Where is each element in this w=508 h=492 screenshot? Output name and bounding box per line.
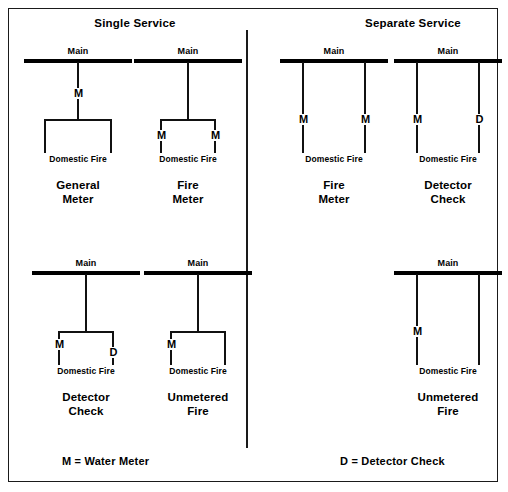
- meter-badge-domestic: M: [155, 130, 168, 141]
- diagram-caption: Detector Check: [30, 390, 142, 418]
- domestic-drop-pipe: [302, 62, 304, 153]
- caption-line-1: Unmetered: [418, 391, 479, 403]
- diagram-caption: General Meter: [22, 178, 134, 206]
- diagram-caption: Fire Meter: [132, 178, 244, 206]
- leg-caption: Domestic Fire: [132, 154, 244, 164]
- meter-badge-main: M: [72, 88, 85, 99]
- caption-line-2: Fire: [437, 405, 459, 417]
- main-pipe: [394, 59, 502, 63]
- meter-badge-domestic: M: [297, 114, 310, 125]
- meter-badge-domestic: M: [411, 114, 424, 125]
- caption-line-2: Check: [430, 193, 465, 205]
- caption-line-1: Detector: [424, 179, 471, 191]
- diagram-caption: Detector Check: [392, 178, 504, 206]
- fire-drop-pipe: [364, 62, 366, 153]
- section-header-single-service: Single Service: [60, 17, 210, 29]
- main-label: Main: [132, 46, 244, 56]
- caption-line-2: Meter: [318, 193, 349, 205]
- main-pipe: [280, 59, 388, 63]
- leg-caption: Domestic Fire: [278, 154, 390, 164]
- leg-caption: Domestic Fire: [30, 366, 142, 376]
- detector-badge-fire: D: [473, 114, 486, 125]
- meter-badge-domestic: M: [411, 326, 424, 337]
- caption-line-2: Fire: [187, 405, 209, 417]
- main-label: Main: [22, 46, 134, 56]
- branch-crossbar: [170, 331, 226, 333]
- service-drop-pipe: [197, 274, 199, 332]
- meter-badge-domestic: M: [165, 339, 178, 350]
- caption-line-1: Detector: [62, 391, 109, 403]
- diagram-caption: Unmetered Fire: [392, 390, 504, 418]
- fire-drop-pipe: [478, 62, 480, 153]
- domestic-leg-pipe: [44, 119, 46, 153]
- main-label: Main: [278, 46, 390, 56]
- caption-line-2: Meter: [62, 193, 93, 205]
- meter-badge-fire: M: [209, 130, 222, 141]
- legend-detector-check: D = Detector Check: [340, 455, 445, 467]
- diagram-caption: Fire Meter: [278, 178, 390, 206]
- caption-line-1: Unmetered: [168, 391, 229, 403]
- fire-leg-pipe-unmetered: [224, 331, 226, 365]
- fire-drop-pipe-unmetered: [478, 274, 480, 365]
- caption-line-1: General: [56, 179, 100, 191]
- service-drop-pipe: [85, 274, 87, 332]
- meter-badge-domestic: M: [53, 339, 66, 350]
- fire-leg-pipe: [110, 119, 112, 153]
- main-pipe: [394, 271, 502, 275]
- vertical-divider: [246, 30, 248, 448]
- diagram-caption: Unmetered Fire: [142, 390, 254, 418]
- main-label: Main: [30, 258, 142, 268]
- domestic-drop-pipe: [416, 62, 418, 153]
- service-drop-pipe: [187, 62, 189, 120]
- caption-line-2: Meter: [172, 193, 203, 205]
- branch-crossbar: [44, 119, 112, 121]
- detector-badge-fire: D: [107, 347, 120, 358]
- caption-line-1: Fire: [323, 179, 345, 191]
- main-label: Main: [392, 258, 504, 268]
- legend-water-meter: M = Water Meter: [62, 455, 149, 467]
- main-label: Main: [142, 258, 254, 268]
- leg-caption: Domestic Fire: [392, 154, 504, 164]
- leg-caption: Domestic Fire: [22, 154, 134, 164]
- branch-crossbar: [160, 119, 216, 121]
- leg-caption: Domestic Fire: [142, 366, 254, 376]
- diagram-page: Single Service Separate Service Main M D…: [0, 0, 508, 492]
- leg-caption: Domestic Fire: [392, 366, 504, 376]
- meter-badge-fire: M: [359, 114, 372, 125]
- domestic-drop-pipe: [416, 274, 418, 365]
- branch-crossbar: [58, 331, 114, 333]
- caption-line-2: Check: [68, 405, 103, 417]
- main-label: Main: [392, 46, 504, 56]
- caption-line-1: Fire: [177, 179, 199, 191]
- section-header-separate-service: Separate Service: [338, 17, 488, 29]
